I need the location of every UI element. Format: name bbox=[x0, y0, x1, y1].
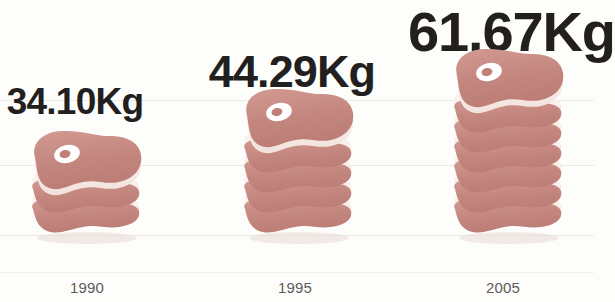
steak-icon bbox=[21, 125, 153, 245]
chart-column-2005: 61.67Kg bbox=[396, 0, 594, 272]
axis-label-2005: 2005 bbox=[404, 279, 602, 296]
chart-column-1995: 44.29Kg bbox=[198, 0, 396, 272]
plot-area: 34.10Kg bbox=[0, 0, 594, 272]
steak-stack bbox=[233, 83, 365, 245]
value-label: 34.10Kg bbox=[0, 83, 174, 120]
steak-shadow bbox=[249, 232, 349, 244]
steak-top bbox=[456, 49, 563, 113]
steak-stack bbox=[443, 43, 575, 245]
steak-icon bbox=[443, 43, 575, 245]
steak-shadow bbox=[37, 232, 137, 244]
axis-label-1995: 1995 bbox=[196, 279, 394, 296]
gridline bbox=[0, 272, 594, 273]
steak-icon bbox=[233, 83, 365, 245]
steak-top bbox=[246, 89, 353, 153]
steak-stack bbox=[21, 125, 153, 245]
axis-label-1990: 1990 bbox=[0, 279, 186, 296]
steak-shadow bbox=[459, 232, 559, 244]
chart-column-1990: 34.10Kg bbox=[0, 0, 198, 272]
steak-top bbox=[34, 131, 141, 195]
